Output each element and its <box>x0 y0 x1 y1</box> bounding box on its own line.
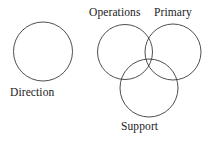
support-label: Support <box>121 120 158 133</box>
direction-circle <box>14 22 73 81</box>
primary-label: Primary <box>154 6 192 19</box>
operations-label: Operations <box>89 6 140 19</box>
venn-diagram-figure <box>0 0 211 142</box>
diagram-canvas: Direction Operations Primary Support <box>0 0 211 142</box>
support-circle <box>120 59 178 117</box>
direction-label: Direction <box>10 86 54 99</box>
